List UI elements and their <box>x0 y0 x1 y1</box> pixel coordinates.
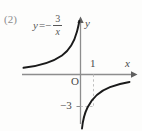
y-tick-label-neg3: −3 <box>60 100 72 111</box>
x-tick-label-1: 1 <box>90 58 96 69</box>
hyperbola-plot <box>0 0 142 131</box>
x-axis <box>22 71 138 77</box>
y-axis-label: y <box>85 18 90 29</box>
x-axis-label: x <box>125 58 130 69</box>
y-axis <box>77 17 83 125</box>
x-axis-arrowhead <box>131 71 138 77</box>
origin-label: O <box>71 76 79 87</box>
curve-right-branch <box>82 82 130 129</box>
figure-container: (2) y = − 3 x <box>0 0 142 131</box>
curve-left-branch <box>24 21 80 68</box>
